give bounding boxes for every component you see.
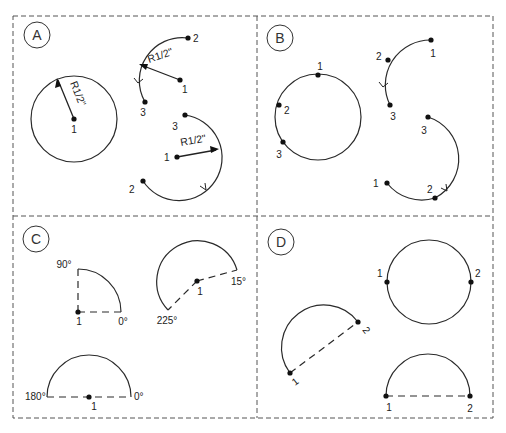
svg-text:1: 1 <box>290 375 301 387</box>
svg-text:R1/2": R1/2" <box>179 132 207 148</box>
svg-text:1: 1 <box>317 61 323 72</box>
arc-construction-diagram: A 1 R1/2" 2 1 3 R1/2" <box>0 0 506 433</box>
svg-text:2: 2 <box>475 268 481 279</box>
svg-text:1: 1 <box>71 124 77 135</box>
svg-text:C: C <box>31 231 41 247</box>
svg-text:3: 3 <box>421 125 427 136</box>
panel-d-badge: D <box>268 229 294 255</box>
svg-text:3: 3 <box>140 107 146 118</box>
svg-text:B: B <box>275 30 284 46</box>
svg-text:1: 1 <box>164 152 170 163</box>
panel-c-sector: 1 15° 225° <box>157 241 246 326</box>
svg-text:180°: 180° <box>25 391 46 402</box>
panel-c-semicircle: 1 180° 0° <box>25 355 144 412</box>
panel-a-lower-arc: 3 1 2 R1/2" <box>129 112 222 200</box>
svg-text:A: A <box>32 27 42 43</box>
svg-text:1: 1 <box>386 402 392 413</box>
svg-text:0°: 0° <box>134 391 144 402</box>
svg-text:2: 2 <box>376 51 382 62</box>
svg-text:1: 1 <box>182 84 188 95</box>
panel-b-lower-arc: 3 1 2 <box>373 114 459 200</box>
panel-c: C 90° 1 0° 1 15° 225° 1 180° 0° <box>23 226 246 412</box>
panel-b: B 1 2 3 1 2 3 3 1 <box>267 25 459 201</box>
panel-c-quarter-arc: 90° 1 0° <box>56 259 127 327</box>
panel-b-upper-arc: 1 2 3 <box>376 37 436 122</box>
panel-d-circle: 1 2 <box>377 240 481 324</box>
panel-d-tilted-semicircle: 1 2 <box>282 305 373 388</box>
svg-text:1: 1 <box>197 286 203 297</box>
svg-text:3: 3 <box>172 121 178 132</box>
panel-d-semicircle: 1 2 <box>383 354 473 414</box>
panel-d: D 1 2 1 2 1 2 <box>268 229 481 414</box>
svg-text:1: 1 <box>76 316 82 327</box>
panel-a-badge: A <box>24 22 50 48</box>
svg-text:2: 2 <box>427 184 433 195</box>
svg-text:225°: 225° <box>157 315 178 326</box>
svg-text:2: 2 <box>129 184 135 195</box>
panel-frame <box>13 16 493 418</box>
svg-text:90°: 90° <box>56 259 71 270</box>
svg-text:1: 1 <box>91 401 97 412</box>
svg-text:2: 2 <box>360 325 372 336</box>
panel-b-badge: B <box>267 25 293 51</box>
svg-text:1: 1 <box>377 268 383 279</box>
svg-text:2: 2 <box>193 33 199 44</box>
svg-text:3: 3 <box>390 111 396 122</box>
svg-text:R1/2": R1/2" <box>146 45 175 65</box>
svg-text:2: 2 <box>284 105 290 116</box>
svg-text:2: 2 <box>467 403 473 414</box>
svg-text:D: D <box>276 234 286 250</box>
svg-text:1: 1 <box>430 48 436 59</box>
svg-text:0°: 0° <box>118 316 128 327</box>
panel-c-badge: C <box>23 226 49 252</box>
panel-b-circle: 1 2 3 <box>275 61 361 160</box>
panel-a-circle: 1 R1/2" <box>31 76 117 162</box>
svg-text:3: 3 <box>276 149 282 160</box>
svg-text:R1/2": R1/2" <box>68 79 89 108</box>
panel-a: A 1 R1/2" 2 1 3 R1/2" <box>24 22 222 201</box>
svg-text:15°: 15° <box>231 276 246 287</box>
svg-text:1: 1 <box>373 178 379 189</box>
panel-a-upper-arc: 2 1 3 R1/2" <box>134 33 199 118</box>
